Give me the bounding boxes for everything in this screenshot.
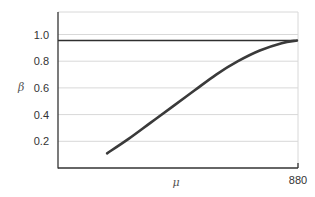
y-tick-label: 0.2 bbox=[34, 135, 49, 147]
x-axis-title: μ bbox=[172, 176, 179, 189]
gridlines bbox=[58, 12, 298, 168]
chart: 0.20.40.60.81.0 β μ 880 bbox=[0, 0, 315, 197]
y-tick-labels: 0.20.40.60.81.0 bbox=[34, 29, 49, 148]
data-curve bbox=[107, 41, 297, 154]
y-tick-label: 0.6 bbox=[34, 82, 49, 94]
y-tick-label: 0.8 bbox=[34, 55, 49, 67]
y-tick-label: 1.0 bbox=[34, 29, 49, 41]
y-axis-title: β bbox=[17, 81, 24, 94]
x-tick-label-880: 880 bbox=[289, 174, 307, 186]
y-tick-label: 0.4 bbox=[34, 109, 49, 121]
